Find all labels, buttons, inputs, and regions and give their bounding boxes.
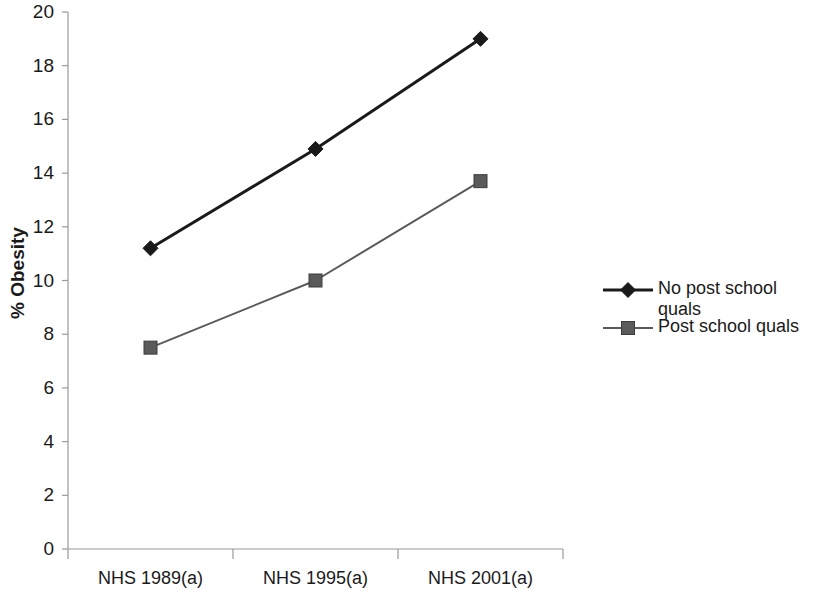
legend-marker: [621, 283, 636, 298]
legend-label: No post school quals: [658, 278, 814, 320]
series-marker: [309, 274, 322, 287]
legend-label: Post school quals: [658, 316, 814, 337]
diamond-marker: [601, 280, 655, 300]
line-chart-figure: % Obesity 02468101214161820 NHS 1989(a)N…: [0, 0, 814, 594]
series-2: [144, 175, 487, 354]
square-marker: [601, 318, 655, 338]
legend-marker: [622, 322, 635, 335]
series-marker: [143, 241, 158, 256]
series-marker: [144, 341, 157, 354]
series-marker: [474, 175, 487, 188]
legend-swatch-graphic: [601, 318, 655, 338]
series-1: [143, 31, 488, 255]
series-line: [151, 181, 481, 347]
legend-swatch-graphic: [601, 280, 655, 300]
